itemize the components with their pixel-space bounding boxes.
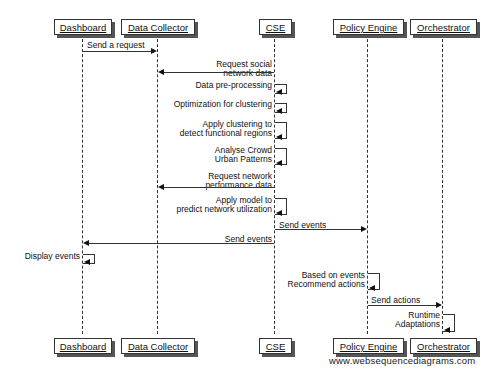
msg-data-preprocessing: Data pre-processing: [195, 80, 272, 90]
arrow-head-left-icon: [369, 285, 375, 291]
msg-send-actions: Send actions: [371, 295, 420, 305]
arrow-head-left-icon: [158, 69, 164, 75]
actor-policy-engine-bottom: Policy Engine: [333, 338, 404, 354]
actor-dashboard-top: Dashboard: [54, 19, 112, 35]
msg-send-a-request: Send a request: [87, 40, 145, 50]
arrow-send-a-request: [83, 51, 151, 52]
arrow-head-left-icon: [84, 259, 90, 265]
lifeline-cse: [274, 34, 275, 334]
arrow-head-left-icon: [276, 160, 282, 166]
msg-recommend-line2: Recommend actions: [288, 279, 365, 289]
arrow-head-right-icon: [436, 302, 442, 308]
actor-data-collector-top: Data Collector: [121, 19, 195, 35]
arrow-request-social: [164, 72, 274, 73]
msg-runtime-line2: Adaptations: [395, 319, 440, 329]
msg-apply-clustering-line2: detect functional regions: [180, 128, 272, 138]
arrow-head-left-icon: [83, 240, 89, 246]
arrow-head-left-icon: [276, 89, 282, 95]
arrow-head-right-icon: [361, 226, 367, 232]
actor-cse-top: CSE: [259, 19, 292, 35]
arrow-head-left-icon: [276, 134, 282, 140]
msg-request-social-line2: network data: [223, 68, 272, 78]
arrow-head-left-icon: [444, 327, 450, 333]
arrow-head-right-icon: [151, 48, 157, 54]
actor-dashboard-bottom: Dashboard: [54, 338, 112, 354]
actor-policy-engine-top: Policy Engine: [333, 19, 404, 35]
arrow-head-left-icon: [276, 210, 282, 216]
watermark: www.websequencediagrams.com: [329, 355, 475, 366]
msg-request-network-line2: performance data: [205, 180, 272, 190]
lifeline-orchestrator: [442, 34, 443, 334]
actor-data-collector-bottom: Data Collector: [121, 338, 195, 354]
msg-analyse-crowd-line2: Urban Patterns: [215, 154, 272, 164]
actor-orchestrator-top: Orchestrator: [410, 19, 477, 35]
msg-optimization: Optimization for clustering: [174, 99, 272, 109]
arrow-request-network: [164, 187, 274, 188]
lifeline-dashboard: [82, 34, 83, 334]
actor-cse-bottom: CSE: [259, 338, 292, 354]
arrow-head-left-icon: [276, 108, 282, 114]
msg-apply-model-line2: predict network utilization: [177, 204, 272, 214]
arrow-send-events-to-policy: [275, 229, 361, 230]
arrow-head-left-icon: [158, 184, 164, 190]
msg-display-events: Display events: [25, 251, 80, 261]
arrow-send-events-to-dashboard: [89, 243, 274, 244]
actor-orchestrator-bottom: Orchestrator: [410, 338, 477, 354]
arrow-send-actions: [368, 305, 436, 306]
